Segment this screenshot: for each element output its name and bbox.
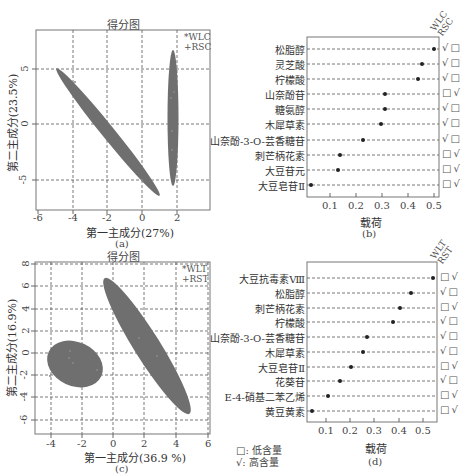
mark-rsc: √ [453,178,461,189]
panel-d-xtick: 0.5 [415,425,431,436]
category-label: 大豆苷元 [200,163,305,178]
panel-a-xtick: -6 [33,212,43,223]
panel-d-xtick: 0.2 [342,425,358,436]
panel-c-ylabel: 第二主成分(16.9%) [3,299,19,398]
panel-d-plot [300,258,450,428]
panel-c-xtick: 4 [173,438,179,449]
panel-c-ytick: -4 [18,392,29,402]
mark-rsc: √ [453,148,461,159]
panel-c-ytick: -6 [18,415,29,425]
panel-d-xtick: 0.3 [366,425,382,436]
panel-c-xtick: 6 [205,438,211,449]
key-high-content: √: 高含量 [236,457,282,469]
panel-c-xlabel: 第一主成分(36.9 %) [84,449,186,465]
category-label: E-4-硝基二苯乙烯 [200,389,305,404]
mark-wlt: □ [440,271,451,282]
mark-rsc: √ [453,163,461,174]
panel-c-xtick: -4 [46,438,56,449]
category-label: 松脂醇 [200,286,305,301]
mark-rst: √ [451,389,459,400]
mark-wlc: □ [442,178,453,189]
symbol-key: □: 低含量 √: 高含量 [236,445,282,469]
panel-b-xtick: 0.2 [348,200,364,211]
category-label: 刺芒柄花素 [200,301,305,315]
panel-d-xtick: 0.4 [391,425,407,436]
mark-rsc: □ [450,102,461,113]
panel-b-marks: √□ √□ √□ □√ √□ √□ √□ □√ □√ □√ [442,42,462,193]
panel-a-xtick: 0 [139,212,145,223]
panel-c-ytick: 2 [20,327,31,333]
mark-wlc: □ [442,87,453,98]
panel-a-xtick: 2 [174,212,180,223]
legend-marker-icon: + [184,42,192,52]
panel-c-ytick: 0 [20,349,31,355]
mark-wlt: □ [440,404,451,415]
mark-rsc: √ [453,87,461,98]
panel-c-ytick: 4 [20,305,31,311]
category-label: 花葵苷 [200,374,305,389]
panel-c-xtick: -2 [77,438,87,449]
mark-rst: □ [448,345,459,356]
legend-marker-icon: + [182,274,190,284]
panel-b-xtick: 0.5 [426,200,442,211]
panel-a-xtick: -2 [102,212,112,223]
panel-a-ytick: 0 [19,120,30,126]
category-label: 柠檬酸 [200,315,305,330]
panel-c-xtick: 0 [110,438,116,449]
category-label: 大豆皂苷Ⅱ [200,360,305,374]
panel-a-ytick: -5 [17,175,28,185]
panel-d-categories: 大豆抗毒素Ⅷ 松脂醇 刺芒柄花素 柠檬酸 山奈酚-3-O-芸香糖苷 木犀草素 大… [200,271,305,419]
mark-wlt: □ [440,301,451,312]
mark-rst: □ [448,286,459,297]
mark-rst: √ [451,301,459,312]
panel-b-xtick: 0.3 [374,200,390,211]
panel-c-ytick: -2 [18,370,29,380]
panel-c-caption: (c) [115,463,128,474]
mark-rst: □ [448,330,459,341]
key-low-content: □: 低含量 [236,445,282,457]
category-label: 糖氨醇 [200,102,305,117]
mark-wlt: □ [440,360,451,371]
ellipse-rsc [168,50,179,186]
panel-a-xlabel: 第一主成分(27%) [86,224,174,240]
category-label: 木犀草素 [200,117,305,133]
panel-b-caption: (b) [362,228,376,239]
panel-a-ytick: 5 [19,65,30,71]
panel-a-ylabel: 第二主成分(23.5%) [4,74,20,173]
panel-b-xtick: 0.1 [322,200,338,211]
panel-c-ytick: 8 [20,260,31,266]
category-label: 黄豆黄素 [200,404,305,419]
mark-rsc: □ [450,117,461,128]
mark-rst: □ [448,374,459,385]
panel-d-caption: (d) [368,456,382,467]
panel-a-xtick: -4 [68,212,78,223]
panel-c-ytick: 6 [20,282,31,288]
mark-rsc: □ [450,72,461,83]
panel-b-xtick: 0.4 [400,200,416,211]
category-label: 刺芒柄花素 [200,148,305,163]
category-label: 松脂醇 [200,42,305,57]
legend-wlc: WLC [189,32,211,42]
mark-wlt: □ [440,389,451,400]
ellipse-wlt [39,332,110,396]
mark-wlc: □ [442,163,453,174]
category-label: 山奈酚苷 [200,87,305,102]
mark-rst: √ [451,360,459,371]
mark-rst: □ [448,315,459,326]
mark-wlc: □ [442,148,453,159]
panel-d-marks: □√ √□ □√ √□ √□ √□ □√ √□ □√ □√ [440,271,460,419]
panel-d-xlabel: 载荷 [365,440,387,456]
mark-rst: √ [451,404,459,415]
category-label: 灵芝酸 [200,57,305,72]
category-label: 大豆抗毒素Ⅷ [200,271,305,286]
category-label: 山奈酚-3-O-芸香糖苷 [200,133,305,148]
panel-d-xtick: 0.1 [318,425,334,436]
panel-b-categories: 松脂醇 灵芝酸 柠檬酸 山奈酚苷 糖氨醇 木犀草素 山奈酚-3-O-芸香糖苷 刺… [200,42,305,193]
category-label: 柠檬酸 [200,72,305,87]
mark-rsc: □ [450,57,461,68]
mark-rst: √ [451,271,459,282]
mark-rsc: □ [450,133,461,144]
ellipse-wlc [51,64,164,200]
category-label: 木犀草素 [200,345,305,360]
panel-b-plot [300,30,450,200]
